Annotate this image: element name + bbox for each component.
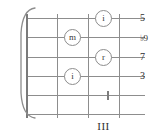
interval-label-text: 3 — [140, 70, 145, 81]
interval-label-7: 7 — [140, 52, 158, 62]
fret-line-2 — [88, 14, 89, 118]
finger-marker-m: m — [64, 29, 81, 46]
string-line-4 — [26, 76, 145, 77]
interval-label-text: 5 — [140, 12, 145, 23]
chord-diagram: i m r i 5 ♭9 7 3 III — [0, 0, 159, 140]
interval-label-5: 5 — [140, 13, 158, 23]
string-line-2 — [26, 37, 145, 38]
tick-marker — [107, 91, 109, 100]
position-label-text: III — [97, 120, 110, 132]
interval-label-flat9: ♭9 — [140, 33, 158, 43]
interval-label-3: 3 — [140, 71, 158, 81]
finger-marker-i-top: i — [95, 10, 112, 27]
string-line-6 — [26, 114, 145, 115]
interval-label-text: ♭9 — [140, 33, 148, 43]
fret-line-3 — [119, 14, 120, 118]
interval-label-text: 7 — [140, 51, 145, 62]
string-line-5 — [26, 95, 145, 96]
finger-marker-i-lower: i — [64, 68, 81, 85]
fret-line-1 — [57, 14, 58, 118]
barre-brace-icon — [18, 7, 36, 115]
finger-marker-r: r — [95, 49, 112, 66]
string-line-1 — [26, 18, 145, 19]
position-label: III — [0, 120, 159, 132]
finger-marker-label: i — [102, 14, 105, 23]
finger-marker-label: m — [69, 33, 76, 42]
string-line-3 — [26, 57, 145, 58]
finger-marker-label: r — [102, 53, 105, 62]
finger-marker-label: i — [71, 72, 74, 81]
